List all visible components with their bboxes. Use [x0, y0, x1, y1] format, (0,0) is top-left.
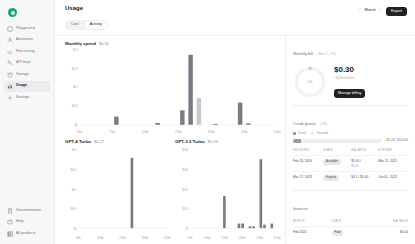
legend-label: Granted — [316, 132, 328, 135]
usage-icon — [7, 83, 13, 89]
svg-text:$0.01: $0.01 — [182, 206, 188, 211]
svg-text:$0.08: $0.08 — [72, 105, 78, 108]
sidebar-item-api-keys[interactable]: API keys — [4, 58, 50, 69]
svg-text:31 Mar: 31 Mar — [274, 131, 281, 134]
svg-text:$0.3: $0.3 — [73, 49, 78, 52]
col-expires: EXPIRES — [378, 148, 408, 156]
gpt35-turbo-plot: $0$0.01$0.02$0.03$0.041 Mar10 Mar15 Mar2… — [175, 147, 279, 240]
svg-text:31 Mar: 31 Mar — [164, 235, 171, 240]
legend-label: Used — [298, 132, 305, 135]
sidebar-bottom-nav: Documentation Help All products — [4, 205, 50, 239]
svg-text:$0.03: $0.03 — [182, 167, 188, 172]
cell-received: Feb 20, 2024 — [293, 155, 323, 171]
monthly-spend-plot: $0$0.08$0.2$0.23$0.31 Mar5 Mar10 Mar15 M… — [65, 48, 279, 134]
chart-total: $0.30 — [99, 42, 109, 46]
invoices-title: Invoices — [293, 206, 308, 211]
credit-grants-table: RECEIVED STATE BALANCE EXPIRES Feb 20, 2… — [293, 148, 408, 184]
cell-state: Expired — [323, 171, 351, 184]
svg-text:15 Mar: 15 Mar — [221, 235, 228, 240]
playground-icon — [7, 26, 13, 32]
monthly-spend-header: Monthly spend $0.30 — [65, 42, 279, 46]
sidebar-item-settings[interactable]: Settings — [4, 92, 50, 103]
sidebar-item-usage[interactable]: Usage — [4, 81, 50, 92]
sidebar-item-documentation[interactable]: Documentation — [4, 205, 50, 216]
cell-expires: Jun 01, 2023 — [378, 171, 408, 184]
current-bill-period: (Mar 1 – 31) — [317, 52, 335, 56]
next-month-icon[interactable]: › — [379, 7, 382, 13]
sidebar-item-all-products[interactable]: All products — [4, 228, 50, 239]
cell-balance: $4.1 / $5.00 — [351, 171, 378, 184]
col-state: STATE — [323, 148, 351, 156]
status-badge: Available — [323, 159, 341, 165]
sidebar-item-label: Help — [16, 220, 24, 224]
svg-text:10 Mar: 10 Mar — [204, 235, 211, 240]
gpt35-turbo-header: GPT-3.5 Turbo $0.03 — [175, 140, 279, 144]
topbar-right: ‹ March › Export — [358, 5, 407, 35]
page-title: Usage — [65, 5, 108, 11]
billing-panel: Monthly bill (Mar 1 – 31) 0% $0.30 — [285, 36, 415, 244]
sidebar-nav: Playground Assistants Fine-tuning API ke… — [4, 23, 50, 103]
svg-text:5 Mar: 5 Mar — [109, 131, 115, 134]
gpt4-turbo-chart: GPT-4 Turbo $0.27 $0$0.07$0.1$0.14$0.31 … — [65, 140, 169, 240]
bill-limit-note: * $150.00 limit — [334, 77, 365, 80]
cell-month: Feb 2024 — [293, 226, 332, 239]
prev-month-icon[interactable]: ‹ — [358, 7, 361, 13]
svg-text:$0: $0 — [74, 226, 77, 231]
svg-text:10 Mar: 10 Mar — [142, 131, 149, 134]
sidebar-item-assistants[interactable]: Assistants — [4, 35, 50, 46]
monthly-spend-chart: Monthly spend $0.30 $0$0.08$0.2$0.23$0.3… — [65, 42, 279, 134]
cell-received: Mar 17, 2023 — [293, 171, 323, 184]
sidebar-item-playground[interactable]: Playground — [4, 23, 50, 34]
table-header-row: MONTH STATE BALANCE — [293, 219, 408, 227]
sidebar-item-label: Usage — [16, 84, 27, 88]
svg-text:$0.02: $0.02 — [182, 187, 188, 192]
credit-grants-title: Credit grants — [293, 121, 316, 126]
col-month: MONTH — [293, 219, 332, 227]
svg-text:1 Mar: 1 Mar — [75, 235, 81, 240]
sidebar-item-storage[interactable]: Storage — [4, 69, 50, 80]
tab-activity[interactable]: Activity — [85, 21, 107, 29]
gpt35-turbo-chart: GPT-3.5 Turbo $0.03 $0$0.01$0.02$0.03$0.… — [175, 140, 279, 240]
gpt4-turbo-plot: $0$0.07$0.1$0.14$0.31 Mar10 Mar15 Mar20 … — [65, 147, 169, 240]
credit-progress-bar — [293, 139, 382, 143]
invoices-section: Invoices MONTH STATE BALANCE Feb 2024 — [293, 196, 408, 239]
col-balance: BALANCE — [351, 148, 378, 156]
credit-grants-info: (US) — [320, 122, 327, 126]
current-bill-title: Monthly bill — [293, 51, 313, 56]
cell-expires: Mar 11, 2025 — [378, 155, 408, 171]
svg-text:$0.1: $0.1 — [72, 187, 77, 192]
manage-billing-button[interactable]: Manage billing — [334, 89, 365, 98]
svg-text:$0.14: $0.14 — [71, 167, 77, 172]
sidebar-item-label: Assistants — [16, 38, 33, 42]
col-state: STATE — [332, 219, 366, 227]
chart-title: GPT-3.5 Turbo — [175, 140, 205, 144]
donut-percent-label: 0% — [293, 65, 327, 99]
col-received: RECEIVED — [293, 148, 323, 156]
openai-logo-icon[interactable] — [8, 8, 17, 17]
model-charts: GPT-4 Turbo $0.27 $0$0.07$0.1$0.14$0.31 … — [65, 140, 279, 240]
legend-item-used: Used — [293, 132, 305, 135]
table-row: Feb 20, 2024 Available $5.00 / $5.00 Mar… — [293, 155, 408, 171]
sidebar-item-help[interactable]: Help — [4, 217, 50, 228]
svg-text:1 Mar: 1 Mar — [187, 235, 193, 240]
current-bill-row: 0% $0.30 * $150.00 limit Manage billing — [293, 65, 408, 99]
credit-progress-fill — [293, 139, 301, 143]
export-button[interactable]: Export — [386, 7, 407, 16]
svg-text:20 Mar: 20 Mar — [141, 235, 148, 240]
divider — [293, 105, 408, 106]
svg-text:20 Mar: 20 Mar — [239, 235, 246, 240]
svg-text:20 Mar: 20 Mar — [208, 131, 215, 134]
sidebar-item-label: Playground — [16, 27, 35, 31]
all-products-icon — [7, 231, 13, 237]
tab-cost[interactable]: Cost — [66, 21, 84, 29]
balance-sub: $5.00 — [351, 164, 378, 168]
sidebar-item-fine-tuning[interactable]: Fine-tuning — [4, 46, 50, 57]
month-label[interactable]: March — [365, 8, 376, 12]
svg-text:$0: $0 — [75, 124, 78, 127]
storage-icon — [7, 72, 13, 78]
topbar-left: Usage Cost Activity — [65, 5, 108, 35]
svg-text:25 Mar: 25 Mar — [256, 235, 263, 240]
fine-tuning-icon — [7, 49, 13, 55]
svg-text:15 Mar: 15 Mar — [119, 235, 126, 240]
cell-state: Paid — [332, 226, 366, 239]
